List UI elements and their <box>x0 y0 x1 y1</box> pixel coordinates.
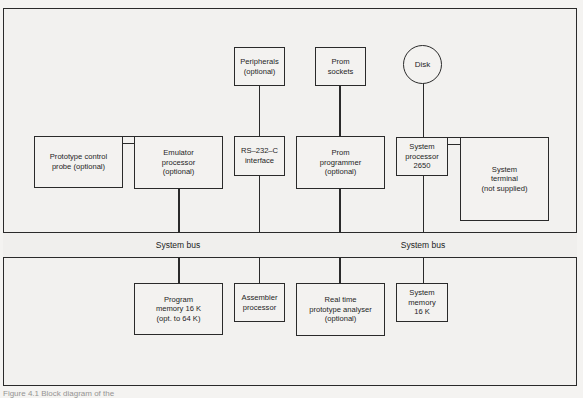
rs232-interface-block: RS–232–C interface <box>234 136 285 176</box>
system-bus-label-right: System bus <box>401 240 445 250</box>
line-rs232-to-bus <box>259 175 261 232</box>
disk-block: Disk <box>403 45 442 84</box>
line-emulator-to-bus <box>178 188 180 232</box>
system-terminal-block: System terminal (not supplied) <box>460 137 549 221</box>
peripherals-block: Peripherals (optional) <box>234 47 285 86</box>
processor-terminal-connector <box>447 137 461 145</box>
system-processor-block: System processor 2650 <box>396 137 448 176</box>
emulator-processor-block: Emulator processor (optional) <box>134 136 223 189</box>
line-bus-to-assembler <box>259 258 261 283</box>
system-memory-block: System memory 16 K <box>396 283 448 322</box>
line-peripherals-to-rs232 <box>259 85 261 136</box>
assembler-processor-block: Assembler processor <box>234 283 285 322</box>
prom-sockets-block: Prom sockets <box>315 47 366 86</box>
system-bus: System bus System bus <box>3 232 577 258</box>
prototype-control-probe-block: Prototype control probe (optional) <box>34 136 123 188</box>
line-programmer-to-bus <box>339 188 341 232</box>
program-memory-block: Program memory 16 K (opt. to 64 K) <box>134 283 223 335</box>
line-disk-to-system-processor <box>423 83 425 137</box>
line-system-processor-to-bus <box>423 175 425 232</box>
line-bus-to-system-memory <box>423 258 425 283</box>
real-time-analyser-block: Real time prototype analyser (optional) <box>296 283 385 336</box>
figure-caption: Figure 4.1 Block diagram of the <box>3 389 114 398</box>
line-bus-to-program-memory <box>178 258 180 283</box>
prom-programmer-block: Prom programmer (optional) <box>296 136 385 189</box>
line-bus-to-analyser <box>339 258 341 283</box>
system-bus-label-left: System bus <box>156 240 200 250</box>
line-prom-sockets-to-programmer <box>339 85 341 136</box>
